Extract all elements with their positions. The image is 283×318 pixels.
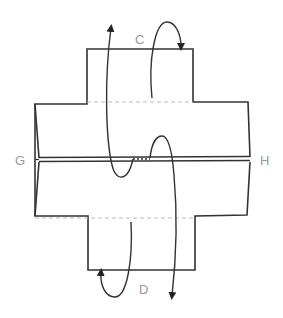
label-g: G <box>15 154 25 167</box>
upper-panel-outline <box>35 49 250 158</box>
lower-panel-outline <box>35 162 250 270</box>
center-line-top <box>39 157 250 158</box>
bottom-fold-loop-arrow-icon <box>101 222 132 297</box>
label-c: C <box>135 33 144 46</box>
label-h: H <box>260 154 269 167</box>
center-line-bottom <box>39 161 250 162</box>
fold-diagram-svg <box>0 0 283 318</box>
top-fold-loop-arrow-icon <box>151 22 181 98</box>
long-down-arrow-icon <box>150 136 176 296</box>
long-up-arrow-icon <box>107 28 133 177</box>
fold-diagram: C G H D <box>0 0 283 318</box>
label-d: D <box>139 283 148 296</box>
